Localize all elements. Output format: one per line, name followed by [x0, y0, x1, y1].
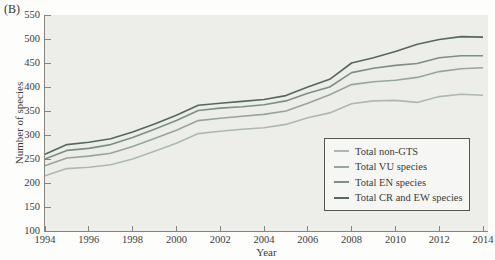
- x-tick-mark: [45, 226, 46, 231]
- x-tick-mark: [439, 226, 440, 231]
- x-tick-label: 2014: [465, 234, 495, 245]
- y-tick-mark: [45, 183, 51, 184]
- x-tick-label: 1998: [115, 234, 151, 245]
- legend-label: Total EN species: [355, 177, 426, 188]
- legend-line-swatch: [334, 197, 349, 199]
- x-tick-label: 2004: [246, 234, 282, 245]
- legend-label: Total VU species: [355, 161, 427, 172]
- y-tick-mark: [45, 111, 51, 112]
- legend-item-total-vu-species: Total VU species: [334, 160, 465, 173]
- y-tick-mark: [45, 39, 51, 40]
- y-tick-label: 150: [6, 202, 40, 212]
- x-tick-mark: [220, 226, 221, 231]
- x-tick-mark: [176, 226, 177, 231]
- y-tick-mark: [45, 63, 51, 64]
- y-tick-label: 200: [6, 178, 40, 188]
- figure: (B) 100150200250300350400450500550 19941…: [0, 0, 495, 260]
- x-tick-label: 2012: [421, 234, 457, 245]
- y-tick-mark: [45, 207, 51, 208]
- x-tick-label: 2002: [202, 234, 238, 245]
- y-tick-label: 500: [6, 34, 40, 44]
- x-tick-label: 2010: [377, 234, 413, 245]
- x-tick-label: 1994: [27, 234, 63, 245]
- x-tick-label: 2000: [158, 234, 194, 245]
- legend-line-swatch: [334, 150, 349, 152]
- y-tick-mark: [45, 15, 51, 16]
- legend-label: Total non-GTS: [355, 146, 418, 157]
- x-tick-mark: [132, 226, 133, 231]
- x-tick-label: 2008: [334, 234, 370, 245]
- y-tick-mark: [45, 159, 51, 160]
- x-axis-line: [44, 231, 488, 232]
- legend: Total non-GTS Total VU species Total EN …: [324, 138, 470, 211]
- y-tick-label: 450: [6, 58, 40, 68]
- legend-line-swatch: [334, 166, 349, 168]
- x-tick-mark: [88, 226, 89, 231]
- x-tick-mark: [264, 226, 265, 231]
- x-tick-mark: [483, 226, 484, 231]
- y-axis-title: Number of species: [13, 73, 25, 173]
- legend-label: Total CR and EW species: [355, 192, 463, 203]
- x-tick-label: 1996: [71, 234, 107, 245]
- legend-item-total-non-gts: Total non-GTS: [334, 145, 465, 158]
- legend-item-total-en-species: Total EN species: [334, 176, 465, 189]
- legend-item-total-cr-and-ew-species: Total CR and EW species: [334, 191, 465, 204]
- x-axis-title: Year: [45, 246, 488, 258]
- x-tick-label: 2006: [290, 234, 326, 245]
- x-tick-mark: [351, 226, 352, 231]
- x-tick-mark: [307, 226, 308, 231]
- y-tick-mark: [45, 87, 51, 88]
- y-tick-label: 550: [6, 10, 40, 20]
- x-tick-mark: [395, 226, 396, 231]
- y-tick-mark: [45, 135, 51, 136]
- y-tick-mark: [45, 231, 51, 232]
- legend-line-swatch: [334, 181, 349, 183]
- y-axis-line: [44, 15, 45, 232]
